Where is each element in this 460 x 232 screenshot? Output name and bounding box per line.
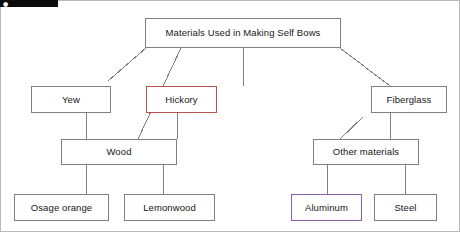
top-status-bar: ● xyxy=(0,0,58,7)
node-aluminum-label: Aluminum xyxy=(305,203,348,213)
node-root[interactable]: Materials Used in Making Self Bows xyxy=(145,18,341,48)
edge-root-yew xyxy=(108,48,146,81)
node-steel[interactable]: Steel xyxy=(374,194,437,221)
node-osage-orange[interactable]: Osage orange xyxy=(14,194,109,221)
node-steel-label: Steel xyxy=(394,203,416,213)
node-other-materials[interactable]: Other materials xyxy=(313,139,419,165)
node-lemonwood-label: Lemonwood xyxy=(143,203,196,213)
node-aluminum[interactable]: Aluminum xyxy=(291,194,362,221)
node-osage-orange-label: Osage orange xyxy=(31,203,92,213)
node-hickory[interactable]: Hickory xyxy=(146,86,217,113)
node-fiberglass-label: Fiberglass xyxy=(387,95,432,105)
edge-root-fiberglass xyxy=(340,48,390,86)
node-wood-label: Wood xyxy=(106,147,131,157)
edge-diagonal-other xyxy=(340,117,363,139)
node-wood[interactable]: Wood xyxy=(61,139,177,165)
node-lemonwood[interactable]: Lemonwood xyxy=(124,194,215,221)
node-yew-label: Yew xyxy=(62,95,80,105)
diagram-canvas: Materials Used in Making Self Bows Yew H… xyxy=(0,0,460,232)
node-other-materials-label: Other materials xyxy=(333,147,399,157)
status-dot-icon: ● xyxy=(2,0,9,7)
node-yew[interactable]: Yew xyxy=(31,86,111,113)
node-root-label: Materials Used in Making Self Bows xyxy=(166,28,321,38)
node-fiberglass[interactable]: Fiberglass xyxy=(371,86,447,113)
node-hickory-label: Hickory xyxy=(165,95,197,105)
